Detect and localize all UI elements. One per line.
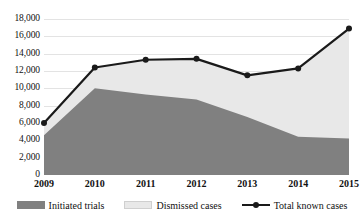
line-marker-swatch-icon	[242, 201, 270, 209]
plot-area	[44, 19, 349, 175]
legend-item-total-known-cases[interactable]: Total known cases	[242, 200, 348, 211]
legend-marker-dot	[253, 202, 259, 208]
x-axis-tick-label: 2014	[288, 178, 308, 190]
legend-item-initiated-trials[interactable]: Initiated trials	[17, 200, 105, 211]
data-point-marker[interactable]	[346, 26, 352, 32]
x-axis-tick-label: 2012	[187, 178, 207, 190]
chart-container: 02,0004,0006,0008,00010,00012,00014,0001…	[0, 0, 364, 215]
legend-label-initiated-trials: Initiated trials	[49, 200, 105, 211]
light-area-swatch-icon	[124, 201, 152, 209]
data-point-marker[interactable]	[92, 65, 98, 71]
legend-item-dismissed-cases[interactable]: Dismissed cases	[124, 200, 221, 211]
series-plot	[44, 19, 349, 175]
data-point-marker[interactable]	[143, 57, 149, 63]
x-axis-tick-label: 2015	[339, 178, 359, 190]
x-axis-tick-label: 2011	[136, 178, 155, 190]
legend-label-total-known-cases: Total known cases	[274, 200, 348, 211]
y-axis-tick-label: 16,000	[0, 31, 40, 41]
y-axis-tick-label: 10,000	[0, 83, 40, 93]
chart-legend: Initiated trials Dismissed cases Total k…	[0, 196, 364, 214]
y-axis-labels: 02,0004,0006,0008,00010,00012,00014,0001…	[0, 0, 40, 194]
data-point-marker[interactable]	[244, 72, 250, 78]
x-axis-tick-label: 2010	[85, 178, 105, 190]
y-axis-tick-label: 2,000	[0, 153, 40, 163]
x-axis-labels: 2009201020112012201320142015	[44, 178, 349, 194]
y-axis-tick-label: 12,000	[0, 66, 40, 76]
y-axis-tick-label: 8,000	[0, 101, 40, 111]
y-axis-tick-label: 4,000	[0, 135, 40, 145]
x-axis-tick-label: 2009	[34, 178, 54, 190]
data-point-marker[interactable]	[295, 65, 301, 71]
y-axis-tick-label: 18,000	[0, 14, 40, 24]
x-axis-tick-label: 2013	[237, 178, 257, 190]
y-axis-tick-label: 6,000	[0, 118, 40, 128]
legend-label-dismissed-cases: Dismissed cases	[156, 200, 221, 211]
y-axis-tick-label: 14,000	[0, 49, 40, 59]
data-point-marker[interactable]	[41, 120, 47, 126]
data-point-marker[interactable]	[194, 56, 200, 62]
dark-area-swatch-icon	[17, 201, 45, 209]
